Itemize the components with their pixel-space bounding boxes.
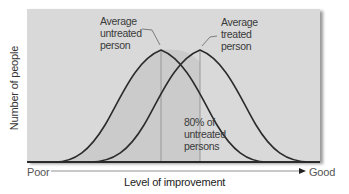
percent-annotation-line2: untreated [184,128,226,140]
untreated-annotation-line1: Average [100,15,142,27]
x-axis-label: Level of improvement [124,176,225,188]
untreated-annotation: Average untreated person [100,15,142,51]
untreated-annotation-line3: person [100,39,142,51]
y-axis-label: Number of people [8,38,20,138]
poor-label: Poor [27,166,49,178]
percent-annotation-line1: 80% of [184,116,226,128]
treated-annotation-line3: person [221,40,258,52]
percent-annotation-line3: persons [184,140,226,152]
untreated-annotation-line2: untreated [100,27,142,39]
good-label: Good [309,166,335,178]
percent-annotation: 80% of untreated persons [184,116,226,152]
treated-annotation-line1: Average [221,16,258,28]
arrow-head-icon [299,168,306,174]
treated-annotation-line2: treated [221,28,258,40]
bell-curve-chart [0,0,349,194]
treated-annotation: Average treated person [221,16,258,52]
